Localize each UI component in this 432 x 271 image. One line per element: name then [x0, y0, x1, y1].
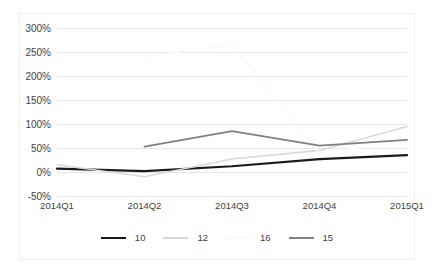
y-tick-label: 100% — [3, 119, 51, 130]
gridline--50 — [57, 196, 407, 197]
series-line-10 — [57, 155, 407, 171]
legend-label: 10 — [135, 233, 146, 243]
legend-label: 12 — [197, 233, 208, 243]
series-lines — [57, 28, 407, 196]
x-tick-label: 2014Q1 — [40, 200, 74, 211]
legend-entry-15[interactable]: 15 — [289, 233, 334, 243]
chart-container: 300%250%200%150%100%50%0%-50% 2014Q12014… — [0, 0, 432, 271]
legend-label: 16 — [260, 233, 271, 243]
y-tick-label: 0% — [3, 167, 51, 178]
legend-swatch-icon — [226, 237, 251, 239]
series-line-15 — [145, 131, 408, 146]
x-tick-label: 2015Q1 — [390, 200, 424, 211]
legend-label: 15 — [323, 233, 334, 243]
y-tick-label: 150% — [3, 95, 51, 106]
y-tick-label: 200% — [3, 71, 51, 82]
x-tick-label: 2014Q4 — [303, 200, 337, 211]
y-tick-label: 250% — [3, 47, 51, 58]
legend-swatch-icon — [101, 237, 126, 239]
legend-entry-16[interactable]: 16 — [226, 233, 271, 243]
x-tick-label: 2014Q3 — [215, 200, 249, 211]
y-tick-label: 50% — [3, 143, 51, 154]
legend-swatch-icon — [163, 237, 188, 239]
plot-area — [57, 28, 407, 196]
chart-legend: 10121615 — [19, 233, 415, 243]
legend-entry-10[interactable]: 10 — [101, 233, 146, 243]
x-tick-label: 2014Q2 — [128, 200, 162, 211]
legend-entry-12[interactable]: 12 — [163, 233, 208, 243]
legend-swatch-icon — [289, 237, 314, 239]
y-tick-label: 300% — [3, 23, 51, 34]
